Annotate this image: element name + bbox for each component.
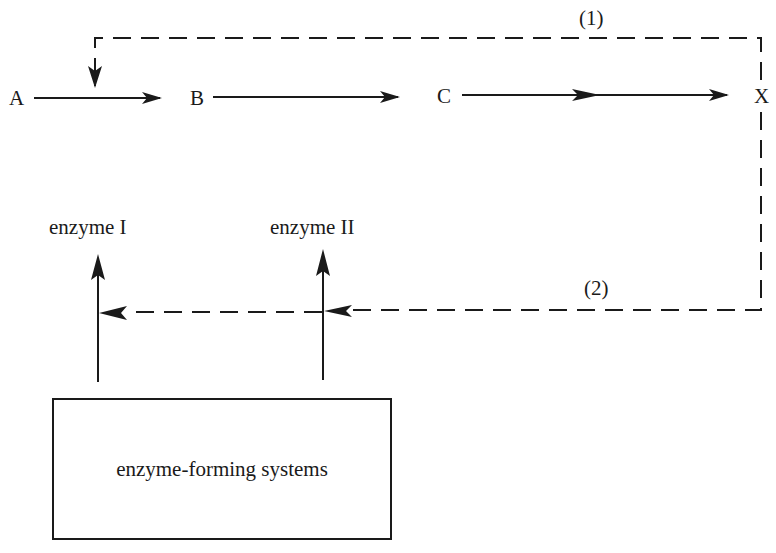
enzyme-forming-systems-box: enzyme-forming systems [52, 398, 392, 540]
enzyme-1-label: enzyme I [49, 217, 127, 238]
feedback-label-1: (1) [579, 8, 604, 29]
enzyme-forming-systems-label: enzyme-forming systems [116, 457, 328, 482]
enzyme-2-label: enzyme II [270, 217, 355, 238]
node-b: B [190, 88, 204, 109]
arrow-to-enzyme-2 [316, 249, 330, 380]
feedback-loop-2 [99, 112, 761, 320]
arrow-to-enzyme-1 [91, 254, 105, 382]
feedback-loop-1 [88, 38, 761, 88]
node-x: X [754, 86, 769, 107]
node-c: C [437, 86, 451, 107]
feedback-label-2: (2) [584, 278, 609, 299]
arrow-c-to-x [462, 89, 727, 101]
node-a: A [9, 88, 24, 109]
